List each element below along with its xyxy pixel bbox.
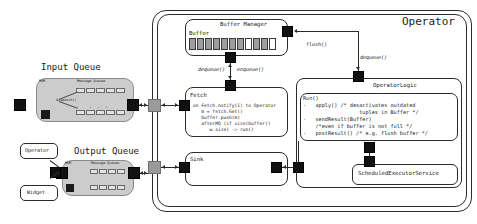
port-output-queue-right[interactable] [128, 167, 140, 179]
input-queue-mom-icon [41, 110, 50, 119]
port-operator-out[interactable] [148, 161, 161, 174]
port-operator-logic-top[interactable] [353, 71, 364, 82]
arrowhead-sink-link [283, 165, 286, 169]
port-scheduled-executor-top[interactable] [364, 156, 375, 167]
label-dequeue-right: dequeue() [360, 55, 387, 61]
output-queue-cell [117, 185, 125, 190]
input-queue-cell [86, 110, 95, 115]
output-queue-cell [90, 169, 98, 174]
link-run-executor [369, 153, 370, 157]
diagram-canvas: Operator Buffer Manager Buffer Fetch on … [0, 0, 477, 224]
arrowhead-dequeue-up [228, 64, 232, 67]
sink-title: Sink [190, 156, 203, 162]
fetch-code-4: w.size) -> run() [193, 127, 254, 132]
arrowhead-enqueue-down [228, 76, 232, 79]
link-operatorlogic-spine [298, 141, 299, 162]
label-flush: flush() [306, 42, 327, 48]
port-sink-right[interactable] [271, 162, 282, 173]
arrowhead-operator-outputqueue [140, 171, 143, 175]
buffer-cell [261, 38, 268, 50]
output-queue-mom-icon [66, 184, 74, 192]
buffer-cell [213, 38, 220, 50]
buffer-cell [189, 38, 196, 50]
label-dequeue-left: dequeue() [198, 67, 225, 73]
label-enqueue: enqueue() [237, 67, 264, 73]
fetch-code-2: buffer.push(m) [193, 115, 240, 120]
port-input-queue-left[interactable] [14, 99, 26, 111]
port-fetch-left[interactable] [179, 100, 190, 111]
buffer-cell [245, 38, 252, 50]
buffer-cell [197, 38, 204, 50]
arrowhead-dequeue-right [356, 67, 360, 70]
buffer-cell [205, 38, 212, 50]
arrowhead-in-fetch [175, 103, 178, 107]
legend-operator-label: Operator [25, 148, 49, 154]
port-buffer-manager-bottom[interactable] [225, 52, 236, 63]
port-sink-left[interactable] [179, 162, 190, 173]
buffer-manager-title: Buffer Manager [220, 21, 267, 27]
scheduled-executor-service-label: ScheduledExecutorService [358, 170, 439, 176]
fetch-title: Fetch [190, 92, 207, 98]
buffer-label: Buffer [189, 30, 209, 36]
fetch-code-3: afterMQ (if size(buffer)) [193, 121, 270, 126]
input-queue-mq-label: Message Queues [77, 80, 106, 84]
buffer-cell [237, 38, 244, 50]
operator-frame-label: Operator [402, 16, 455, 29]
input-queue-cell [86, 88, 95, 93]
port-operator-in[interactable] [148, 99, 161, 112]
input-queue-cell [106, 110, 115, 115]
input-queue-cell [76, 110, 85, 115]
port-fetch-top[interactable] [225, 80, 236, 91]
output-queue-cell [99, 169, 107, 174]
buffer-cell [221, 38, 228, 50]
legend-widget-label: Widget [27, 190, 45, 196]
arrowhead-fetch-in [162, 103, 165, 107]
arrowhead-out-sink [175, 165, 178, 169]
buffer-cell [229, 38, 236, 50]
input-queue-mom-label: MOM [39, 80, 45, 84]
fetch-code-1: m = fetch.Get() [193, 109, 243, 114]
output-queue-title: Output Queue [74, 146, 139, 156]
buffer-cell [253, 38, 260, 50]
input-queue-cell [116, 110, 125, 115]
port-operator-logic-run[interactable] [364, 142, 375, 153]
link-flush-vertical [358, 31, 359, 71]
output-queue-cell [108, 185, 116, 190]
buffer-cell [269, 38, 276, 50]
input-queue-box [36, 78, 134, 122]
output-queue-cell [99, 185, 107, 190]
input-queue-cell [116, 88, 125, 93]
input-queue-cell [96, 88, 105, 93]
output-queue-cell [108, 169, 116, 174]
arrowhead-operator-inputqueue [139, 103, 142, 107]
output-queue-cell [117, 169, 125, 174]
port-buffer-manager-right[interactable] [282, 26, 293, 37]
buffer-cell-row [189, 38, 276, 50]
arrowhead-flush [294, 29, 297, 33]
output-queue-mq-label: Message Queues [91, 162, 120, 166]
arrowhead-outputqueue-operator [144, 171, 147, 175]
output-queue-mom-label: MOM [65, 162, 71, 166]
operator-logic-title: OperatorLogic [373, 82, 417, 88]
link-flush-horizontal [296, 31, 359, 32]
input-queue-title: Input Queue [41, 62, 101, 72]
port-input-queue-right[interactable] [127, 99, 139, 111]
input-queue-cell [96, 110, 105, 115]
operator-logic-code-5: · postResult() /* e.g. flush buffer */ [303, 131, 428, 137]
arrowhead-inputqueue-operator [144, 103, 147, 107]
input-queue-ellipsis: . . . [89, 103, 109, 109]
input-queue-cell [106, 88, 115, 93]
output-queue-cell [90, 185, 98, 190]
port-operator-logic-left[interactable] [293, 162, 304, 173]
fetch-code-0: on Fetch.notify(I) to Operator [193, 103, 276, 108]
arrowhead-sink-out [162, 165, 165, 169]
